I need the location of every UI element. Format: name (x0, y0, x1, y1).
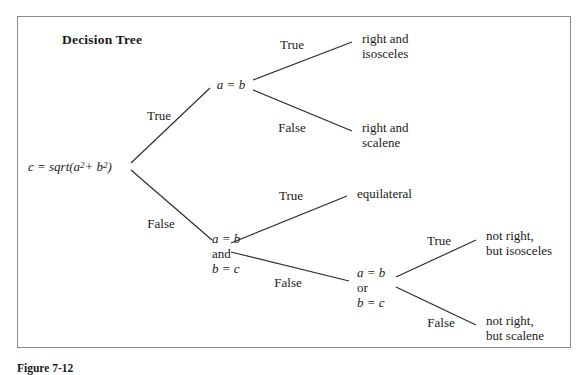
edge-label-n2-false: False (274, 275, 301, 290)
figure-caption: Figure 7-12 (17, 362, 73, 375)
node-or-operator: or (357, 280, 385, 295)
leaf-right-scalene-line-2: scalene (362, 135, 409, 150)
leaf-equilateral-line-1: equilateral (357, 186, 412, 201)
node-a-eq-b: a = b (217, 77, 245, 92)
leaf-not-right-scalene-line-2: but scalene (486, 328, 544, 343)
node-and-operator: and (212, 246, 240, 261)
node-a-eq-b-line-1: a = b (217, 77, 245, 92)
root-middle: + b (85, 159, 104, 174)
node-and-line-1: a = b (212, 231, 240, 246)
leaf-right-isosceles: right and isosceles (362, 31, 409, 61)
node-or-line-3: b = c (357, 295, 385, 310)
edge-label-root-true: True (147, 108, 171, 123)
figure-frame (17, 16, 571, 348)
leaf-not-right-isosceles-line-2: but isosceles (486, 243, 552, 258)
leaf-not-right-isosceles-line-1: not right, (486, 228, 552, 243)
node-and-line-3: b = c (212, 261, 240, 276)
figure-title: Decision Tree (62, 32, 142, 48)
root-prefix: c = sqrt(a (28, 159, 80, 174)
leaf-right-isosceles-line-2: isosceles (362, 46, 409, 61)
edge-label-n3-false: False (427, 315, 454, 330)
node-a-eq-b-and-b-eq-c: a = b and b = c (212, 231, 240, 276)
edge-label-n1-false: False (278, 120, 305, 135)
leaf-right-scalene-line-1: right and (362, 120, 409, 135)
edge-label-n2-true: True (279, 188, 303, 203)
leaf-not-right-scalene: not right, but scalene (486, 313, 544, 343)
root-suffix: ) (107, 159, 111, 174)
leaf-right-isosceles-line-1: right and (362, 31, 409, 46)
leaf-equilateral: equilateral (357, 186, 412, 201)
edge-label-n3-true: True (427, 233, 451, 248)
node-or-line-1: a = b (357, 265, 385, 280)
leaf-not-right-scalene-line-1: not right, (486, 313, 544, 328)
node-a-eq-b-or-b-eq-c: a = b or b = c (357, 265, 385, 310)
edge-label-n1-true: True (280, 37, 304, 52)
leaf-right-scalene: right and scalene (362, 120, 409, 150)
leaf-not-right-isosceles: not right, but isosceles (486, 228, 552, 258)
edge-label-root-false: False (147, 216, 174, 231)
root-condition: c = sqrt(a2+ b2) (28, 159, 112, 174)
